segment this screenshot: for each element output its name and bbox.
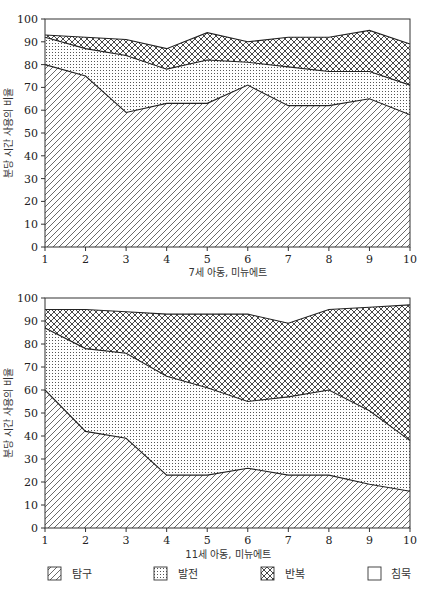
legend-item-development: 발전 [154,567,198,581]
x-axis-title-age-7: 7세 아동, 미뉴에트 [189,267,268,278]
x-tick-label: 3 [123,534,130,547]
x-tick-label: 1 [42,253,49,266]
y-tick-label: 100 [17,292,38,305]
x-tick-label: 5 [204,534,211,547]
dots-swatch-icon [154,567,167,580]
chart-age-11: 010203040506070809010012345678910 [17,292,417,547]
stacked-area-figure: 010203040506070809010012345678910 010203… [0,0,431,605]
y-tick-label: 90 [24,36,38,49]
y-tick-label: 0 [31,241,38,254]
y-tick-label: 20 [24,476,38,489]
x-tick-label: 10 [403,534,417,547]
legend-item-repetition: 반복 [261,567,305,581]
y-tick-label: 40 [24,430,38,443]
y-tick-label: 10 [24,499,38,512]
x-tick-label: 4 [163,253,170,266]
y-tick-label: 40 [24,150,38,163]
y-tick-label: 70 [24,81,38,94]
y-tick-label: 50 [24,407,38,420]
y-tick-label: 30 [24,453,38,466]
x-tick-label: 10 [403,253,417,266]
y-tick-label: 60 [24,104,38,117]
y-tick-label: 0 [31,522,38,535]
legend-item-silence: 침묵 [368,567,411,581]
y-tick-label: 90 [24,315,38,328]
y-tick-label: 10 [24,218,38,231]
y-tick-label: 20 [24,195,38,208]
legend-label: 발전 [178,568,198,581]
x-tick-label: 8 [325,534,332,547]
x-tick-label: 1 [42,534,49,547]
y-tick-label: 70 [24,361,38,374]
crosshatch-swatch-icon [261,567,274,580]
legend-label: 탐구 [72,568,92,581]
y-tick-label: 30 [24,173,38,186]
x-tick-label: 3 [123,253,130,266]
x-tick-label: 9 [366,253,373,266]
x-tick-label: 2 [82,534,89,547]
legend: 탐구 발전 반복 침묵 [48,567,411,581]
legend-label: 침묵 [391,568,411,581]
x-tick-label: 4 [163,534,170,547]
x-tick-label: 7 [285,534,292,547]
legend-item-exploration: 탐구 [48,567,92,581]
y-tick-label: 50 [24,127,38,140]
chart-age-7: 010203040506070809010012345678910 [17,13,417,266]
y-tick-label: 100 [17,13,38,26]
y-tick-label: 60 [24,384,38,397]
diagonal-hatch-swatch-icon [48,567,61,580]
y-tick-label: 80 [24,338,38,351]
x-tick-label: 2 [82,253,89,266]
x-tick-label: 6 [244,534,251,547]
x-tick-label: 7 [285,253,292,266]
x-tick-label: 6 [244,253,251,266]
y-axis-title-age-11: 분당 시간 사용의 비율 [3,368,14,459]
x-tick-label: 9 [366,534,373,547]
x-tick-label: 8 [325,253,332,266]
x-axis-title-age-11: 11세 아동, 미뉴에트 [185,549,270,560]
legend-label: 반복 [285,568,305,581]
blank-swatch-icon [368,567,381,580]
x-tick-label: 5 [204,253,211,266]
y-axis-title-age-7: 분당 시간 사용의 비율 [3,88,14,179]
y-tick-label: 80 [24,59,38,72]
